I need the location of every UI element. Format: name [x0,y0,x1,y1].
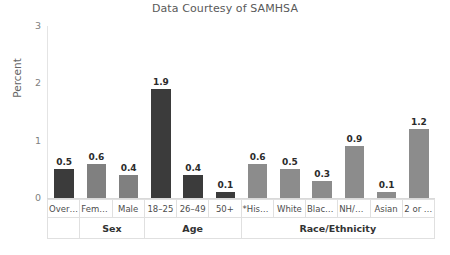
bar[interactable]: 0.6 [87,164,107,198]
group-cell [48,218,80,239]
bar-slot: 0.9 [338,26,370,198]
group-cell: Age [144,218,241,239]
group-cell: Sex [80,218,145,239]
y-tick-3: 3 [35,21,41,31]
y-tick-0: 0 [35,193,41,203]
category-cell: NH/OPI [338,200,370,218]
category-cell: 26–49 [177,200,209,218]
category-cell: 2 or … [402,200,434,218]
bar-value-label: 1.2 [411,118,427,127]
bar-value-label: 0.6 [88,153,104,162]
category-cell: 18–25 [144,200,176,218]
bar[interactable]: 0.9 [345,146,365,198]
bars-layer: 0.50.60.41.90.40.10.60.50.30.90.11.2 [48,26,435,198]
category-cell: Female [80,200,112,218]
bar-slot: 0.1 [371,26,403,198]
bar[interactable]: 1.9 [151,89,171,198]
bar-slot: 1.2 [403,26,435,198]
bar[interactable]: 0.4 [183,175,203,198]
category-table: OverallFemaleMale18–2526–4950+*Hisp…Whit… [47,199,435,239]
bar-value-label: 0.4 [185,164,201,173]
bar-chart: Data Courtesy of SAMHSA Percent 0123 0.5… [0,0,450,255]
bar-value-label: 0.9 [346,135,362,144]
bar[interactable]: 0.5 [54,169,74,198]
category-cell: 50+ [209,200,241,218]
bar-slot: 0.4 [177,26,209,198]
bar-slot: 0.5 [48,26,80,198]
bar[interactable]: 0.6 [248,164,268,198]
bar-slot: 0.5 [274,26,306,198]
category-cell: White [273,200,305,218]
bar-value-label: 0.1 [379,181,395,190]
category-cell: *Hisp… [241,200,273,218]
bar-slot: 1.9 [145,26,177,198]
bar-value-label: 1.9 [153,78,169,87]
bar[interactable]: 1.2 [409,129,429,198]
y-tick-1: 1 [35,136,41,146]
bar-slot: 0.1 [209,26,241,198]
bar-slot: 0.4 [113,26,145,198]
bar[interactable]: 0.5 [280,169,300,198]
bar[interactable]: 0.4 [119,175,139,198]
bar-slot: 0.6 [80,26,112,198]
group-cell: Race/Ethnicity [241,218,435,239]
category-cell: Overall [48,200,80,218]
bar[interactable]: 0.1 [216,192,236,198]
category-row: OverallFemaleMale18–2526–4950+*Hisp…Whit… [48,200,435,218]
bar[interactable]: 0.1 [377,192,397,198]
bar[interactable]: 0.3 [312,181,332,198]
category-cell: Black … [306,200,338,218]
category-cell: Male [112,200,144,218]
y-axis-label: Percent [11,33,23,123]
group-row: SexAgeRace/Ethnicity [48,218,435,239]
bar-value-label: 0.5 [56,158,72,167]
plot-area: 0123 0.50.60.41.90.40.10.60.50.30.90.11.… [47,26,435,199]
bar-value-label: 0.6 [250,153,266,162]
category-cell: Asian [370,200,402,218]
y-tick-2: 2 [35,79,41,89]
chart-title: Data Courtesy of SAMHSA [0,2,450,15]
bar-value-label: 0.4 [121,164,137,173]
bar-value-label: 0.3 [314,170,330,179]
bar-value-label: 0.1 [217,181,233,190]
bar-value-label: 0.5 [282,158,298,167]
bar-slot: 0.6 [242,26,274,198]
bar-slot: 0.3 [306,26,338,198]
